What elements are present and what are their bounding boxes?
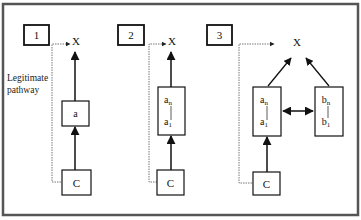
target-x: X <box>72 35 80 47</box>
node-a-label: a <box>73 108 78 119</box>
node-c-label: C <box>167 177 174 189</box>
arrow-b-chain-to-x <box>306 58 329 86</box>
node-c-label: C <box>73 177 80 189</box>
panel-3: 3 X an a1 bn b1 C <box>207 25 343 195</box>
pathway-diagram: 1 X a C 2 X an a1 C 3 X <box>0 0 361 220</box>
panel-1: 1 X a C <box>24 25 91 195</box>
node-c-label: C <box>263 178 270 190</box>
panel-number: 2 <box>128 29 134 41</box>
legitimate-pathway-label: Legitimate pathway <box>7 72 48 96</box>
arrow-a-chain-to-x <box>268 58 291 86</box>
legitimate-pathway-label-line2: pathway <box>7 84 48 96</box>
panel-number: 1 <box>34 29 40 41</box>
target-x: X <box>293 36 301 48</box>
panel-number: 3 <box>217 29 223 41</box>
target-x: X <box>168 35 176 47</box>
panel-2: 2 X an a1 C <box>118 25 185 195</box>
legitimate-pathway-label-line1: Legitimate <box>7 72 48 84</box>
